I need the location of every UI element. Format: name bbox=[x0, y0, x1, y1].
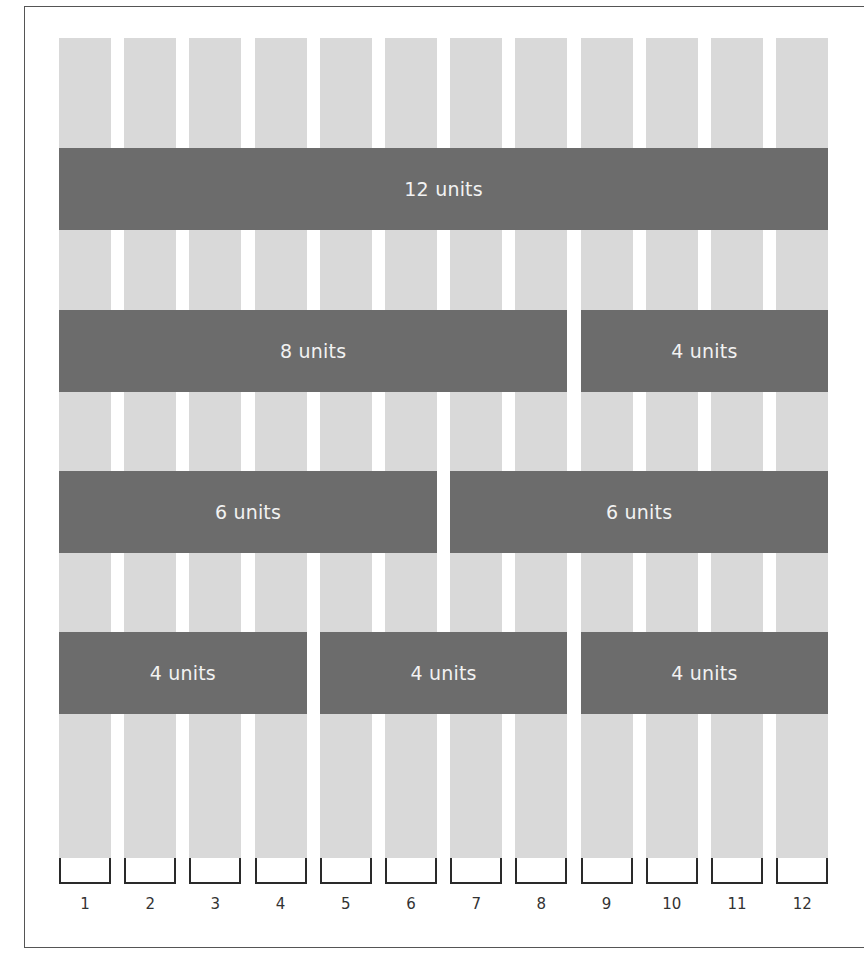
span-block-4-units: 4 units bbox=[320, 632, 568, 714]
span-block-4-units: 4 units bbox=[581, 632, 829, 714]
span-block-12-units: 12 units bbox=[59, 148, 828, 230]
column-bracket bbox=[515, 858, 567, 884]
column-bracket bbox=[646, 858, 698, 884]
column-bracket bbox=[59, 858, 111, 884]
span-block-8-units: 8 units bbox=[59, 310, 567, 392]
column-bracket bbox=[255, 858, 307, 884]
column-number-label: 10 bbox=[646, 895, 698, 913]
span-block-4-units: 4 units bbox=[581, 310, 829, 392]
column-number-label: 11 bbox=[711, 895, 763, 913]
column-bracket bbox=[450, 858, 502, 884]
column-number-label: 3 bbox=[189, 895, 241, 913]
column-bracket bbox=[711, 858, 763, 884]
column-number-label: 4 bbox=[255, 895, 307, 913]
column-number-label: 12 bbox=[776, 895, 828, 913]
column-bracket bbox=[776, 858, 828, 884]
column-number-label: 2 bbox=[124, 895, 176, 913]
column-number-label: 5 bbox=[320, 895, 372, 913]
column-bracket bbox=[581, 858, 633, 884]
column-number-label: 9 bbox=[581, 895, 633, 913]
column-bracket bbox=[124, 858, 176, 884]
span-block-6-units: 6 units bbox=[59, 471, 437, 553]
span-block-6-units: 6 units bbox=[450, 471, 828, 553]
column-number-label: 6 bbox=[385, 895, 437, 913]
column-number-label: 8 bbox=[515, 895, 567, 913]
column-number-label: 1 bbox=[59, 895, 111, 913]
span-block-4-units: 4 units bbox=[59, 632, 307, 714]
column-bracket bbox=[189, 858, 241, 884]
column-number-label: 7 bbox=[450, 895, 502, 913]
column-bracket bbox=[385, 858, 437, 884]
column-bracket bbox=[320, 858, 372, 884]
